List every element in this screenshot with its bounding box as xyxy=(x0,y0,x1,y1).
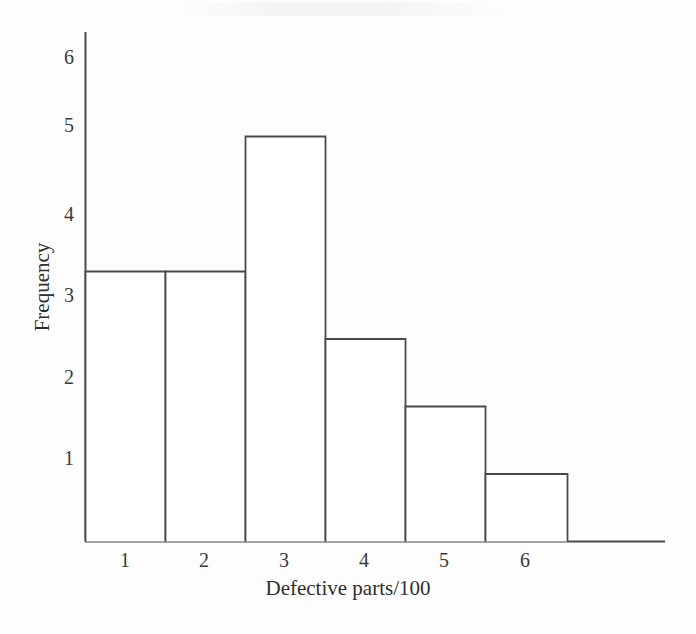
bar-bin-5 xyxy=(406,407,486,542)
bar-bin-4 xyxy=(326,339,406,542)
y-tick-label-4: 4 xyxy=(48,204,74,224)
bar-bin-6 xyxy=(486,474,568,542)
y-tick-label-5: 5 xyxy=(48,115,74,135)
x-tick-label-1: 1 xyxy=(105,550,145,570)
x-tick-label-3: 3 xyxy=(264,550,304,570)
x-tick-label-5: 5 xyxy=(424,550,464,570)
y-tick-label-2: 2 xyxy=(48,367,74,387)
y-axis-title: Frequency xyxy=(32,243,53,332)
x-tick-label-4: 4 xyxy=(344,550,384,570)
bar-bin-1 xyxy=(86,272,166,542)
x-tick-label-6: 6 xyxy=(505,550,545,570)
histogram-figure: 6 5 4 3 2 1 1 2 3 4 5 6 Defective parts/… xyxy=(0,0,696,634)
histogram-plot xyxy=(0,0,696,634)
x-tick-label-2: 2 xyxy=(184,550,224,570)
bar-bin-2 xyxy=(166,272,246,542)
bar-bin-3 xyxy=(246,137,326,542)
y-tick-label-6: 6 xyxy=(48,47,74,67)
y-tick-label-1: 1 xyxy=(48,448,74,468)
x-axis-title: Defective parts/100 xyxy=(0,578,696,599)
